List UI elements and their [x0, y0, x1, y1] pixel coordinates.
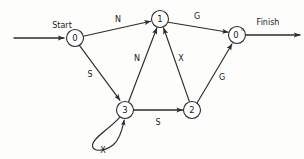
node-state-0-label: 0 [72, 33, 77, 43]
finish-label: Finish [257, 18, 280, 27]
edge-label-node2-to-node1: X [178, 54, 184, 63]
node-state-0[interactable]: 0 [67, 30, 84, 47]
state-diagram-canvas: N S G N S X X G Start Finish 0 1 0 ' [0, 0, 304, 159]
node-state-2-label: 2 [189, 105, 194, 115]
node-state-3-label: 3 [122, 105, 127, 115]
state-diagram-container: N S G N S X X G Start Finish 0 1 0 ' [0, 0, 304, 159]
node-state-2[interactable]: 2 [184, 102, 201, 119]
edge-label-node3-to-node1: N [134, 54, 140, 63]
edge-label-node3-self-loop: X [100, 146, 106, 155]
edge-label-node0-to-node3: S [87, 70, 92, 79]
start-label: Start [52, 21, 72, 30]
edge-node1-to-node0prime [168, 22, 228, 32]
node-state-3[interactable]: 3 [117, 102, 134, 119]
edge-node2-to-node0prime [197, 44, 232, 103]
node-state-1[interactable]: 1 [152, 11, 169, 28]
edge-label-node3-to-node2: S [155, 118, 160, 127]
edge-label-node1-to-node0prime: G [194, 12, 200, 21]
edge-label-node0-to-node1: N [115, 15, 121, 24]
node-state-0-prime-mark: ' [241, 28, 243, 36]
edge-node3-to-node1 [129, 28, 157, 102]
node-state-0-prime[interactable]: 0 ' [229, 27, 246, 44]
node-state-0-prime-label: 0 [233, 30, 238, 40]
edge-node2-to-node1 [164, 28, 190, 102]
node-state-1-label: 1 [157, 14, 162, 24]
edge-node0-to-node3 [80, 46, 120, 101]
edge-label-node2-to-node0prime: G [219, 73, 225, 82]
edge-node3-self-loop [92, 118, 124, 151]
